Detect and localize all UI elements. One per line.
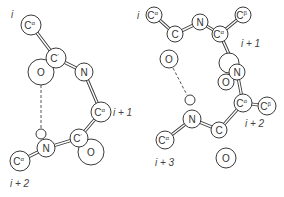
atom-c1: C′ xyxy=(46,48,66,68)
beta-turn-structure: CαCONCβCαONCβCαOCNCαii + 1i + 2i + 3 xyxy=(137,7,276,168)
turn-diagram: CαOC′NCαOC′NCαii + 1i + 2 CαCONCβCαONCβC… xyxy=(0,0,284,197)
atom-ca1: Cα xyxy=(21,15,41,35)
atom-label: O xyxy=(37,67,45,78)
atom-label: C xyxy=(215,125,222,136)
atom-ca2: Cα xyxy=(91,102,111,122)
atom-n2: N xyxy=(75,63,93,81)
atom-label: O xyxy=(165,54,173,65)
atom-c3: C xyxy=(211,122,227,138)
residue-label: i + 2 xyxy=(10,178,30,189)
atom-label: N xyxy=(188,114,195,125)
atom-label: N xyxy=(80,67,87,78)
atom-ca3: Cα xyxy=(234,94,252,112)
residue-label: i + 3 xyxy=(155,157,175,168)
atom-label: C xyxy=(171,29,178,40)
atom-label: N xyxy=(233,67,240,78)
atom-c1: C xyxy=(167,26,183,42)
atom-n2: N xyxy=(192,14,208,30)
atom-o1: O xyxy=(160,50,178,68)
atom-label: O xyxy=(222,153,230,164)
hydrogen-bond xyxy=(173,68,187,95)
atom-cb2: Cβ xyxy=(235,7,251,23)
residue-label: i + 1 xyxy=(241,38,260,49)
atom-label: N xyxy=(42,143,49,154)
atom-ca1: Cα xyxy=(146,7,162,23)
gamma-turn-structure: CαOC′NCαOC′NCαii + 1i + 2 xyxy=(10,9,132,189)
atom-n3: N xyxy=(229,64,245,80)
residue-label: i + 2 xyxy=(245,118,265,129)
residue-label: i xyxy=(11,9,14,20)
atom-n3: N xyxy=(37,139,55,157)
atom-o3: O xyxy=(216,148,236,168)
atom-cb3: Cβ xyxy=(258,97,276,115)
atom-n4: N xyxy=(183,110,201,128)
atom-label: N xyxy=(196,17,203,28)
residue-label: i + 1 xyxy=(113,107,132,118)
atom-h4 xyxy=(185,95,195,105)
atom-label: O xyxy=(222,77,230,88)
atom-h3 xyxy=(36,129,46,139)
atom-ca2: Cα xyxy=(212,26,228,42)
atom-ca4: Cα xyxy=(156,131,174,149)
atom-ca3: Cα xyxy=(10,151,30,171)
atom-label: O xyxy=(87,147,95,158)
atom-c2: C′ xyxy=(70,129,88,147)
residue-label: i xyxy=(137,10,140,21)
